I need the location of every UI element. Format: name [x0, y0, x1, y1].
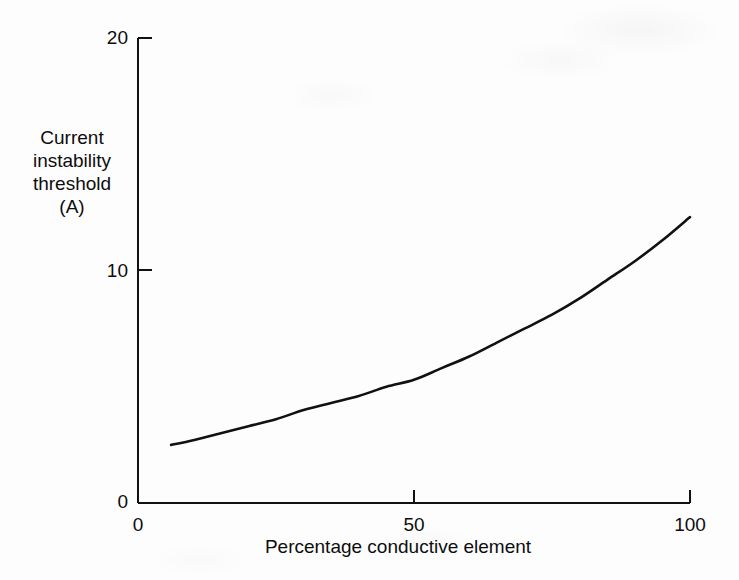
y-axis-title: Current instability threshold (A): [14, 126, 130, 218]
x-tick-label-50: 50: [400, 515, 428, 534]
y-axis-title-line-4: (A): [14, 195, 130, 218]
y-tick-label-0: 0: [92, 492, 128, 511]
x-tick-label-0: 0: [124, 515, 152, 534]
y-axis-title-line-1: Current: [14, 126, 130, 149]
y-tick-label-10: 10: [92, 261, 128, 280]
x-tick-label-100: 100: [669, 515, 711, 534]
chart-figure: 20 10 0 0 50 100 Current instability thr…: [0, 0, 739, 580]
y-tick-label-20: 20: [92, 28, 128, 47]
data-curve-line: [171, 217, 690, 445]
data-series-group: [171, 217, 690, 445]
y-axis-title-line-3: threshold: [14, 172, 130, 195]
x-axis-title: Percentage conductive element: [238, 536, 558, 558]
y-axis-title-line-2: instability: [14, 149, 130, 172]
